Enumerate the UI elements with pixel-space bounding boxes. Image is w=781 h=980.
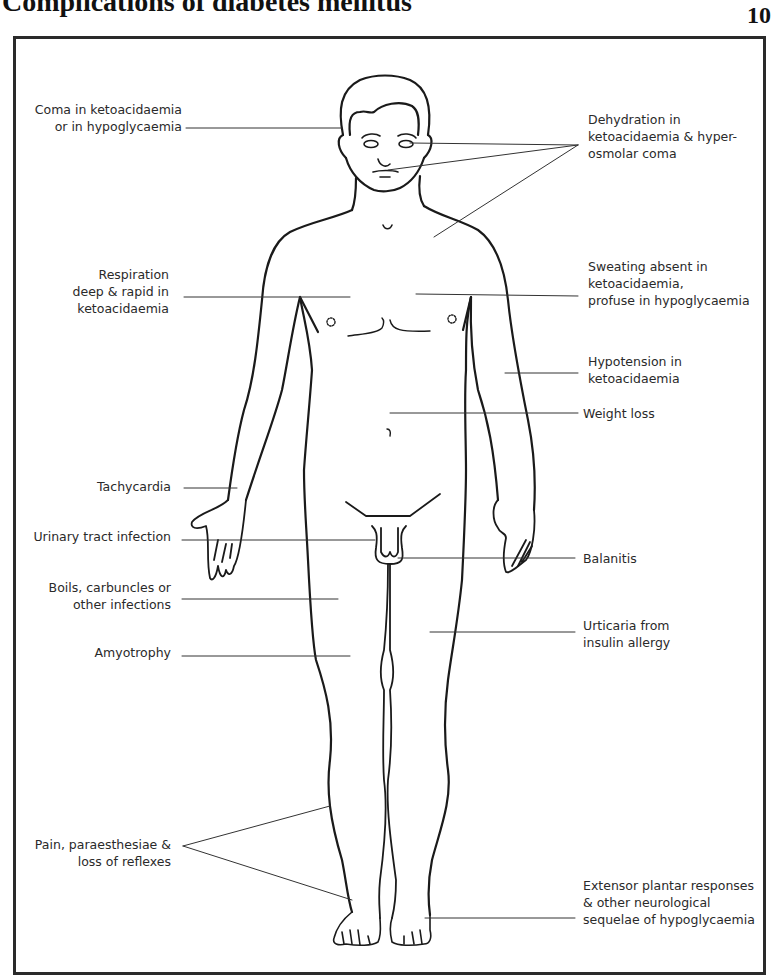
label-coma: Coma in ketoacidaemia or in hypoglycaemi…: [35, 101, 182, 135]
feet: [334, 912, 431, 945]
label-hypotension: Hypotension in ketoacidaemia: [588, 353, 682, 387]
label-amyotrophy: Amyotrophy: [95, 644, 171, 661]
label-respiration: Respiration deep & rapid in ketoacidaemi…: [73, 266, 169, 317]
label-tachycardia: Tachycardia: [97, 478, 171, 495]
label-pain: Pain, paraesthesiae & loss of reflexes: [35, 836, 171, 870]
right-hand: [494, 500, 535, 572]
label-sweating: Sweating absent in ketoacidaemia, profus…: [588, 258, 750, 309]
label-balanitis: Balanitis: [583, 550, 637, 567]
torso-outline: [228, 206, 535, 915]
chest-details: [327, 315, 456, 436]
label-dehydration: Dehydration in ketoacidaemia & hyper- os…: [588, 111, 737, 162]
label-extensor: Extensor plantar responses & other neuro…: [583, 877, 755, 928]
leader-lines: [182, 128, 578, 918]
label-weight-loss: Weight loss: [583, 405, 655, 422]
label-urticaria: Urticaria from insulin allergy: [583, 617, 670, 651]
label-urinary-tract-infection: Urinary tract infection: [33, 528, 171, 545]
label-boils: Boils, carbuncles or other infections: [49, 579, 171, 613]
face-features: [362, 134, 416, 229]
